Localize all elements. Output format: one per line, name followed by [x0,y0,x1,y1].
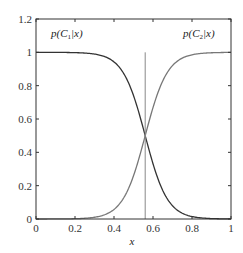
curve-p-c2 [36,52,231,219]
plot-frame [36,19,231,219]
y-tick-label: 0 [27,213,33,225]
y-tick-label: 1 [27,46,33,58]
x-tick-label: 0 [33,222,39,234]
x-tick-label: 0.4 [107,222,121,234]
curves [36,52,231,219]
chart: 00.20.40.60.81 00.20.40.60.811.2 p(C1|x)… [0,0,243,253]
x-axis-ticks: 00.20.40.60.81 [33,19,234,234]
y-tick-label: 1.2 [18,13,32,25]
x-tick-label: 0.2 [68,222,82,234]
annotation-p-c1: p(C1|x) [50,27,83,41]
curve-p-c1 [36,52,231,219]
x-tick-label: 1 [228,222,234,234]
y-tick-label: 0.8 [18,80,32,92]
y-axis-ticks: 00.20.40.60.811.2 [18,13,231,225]
y-tick-label: 0.4 [18,146,32,158]
annotation-p-c2: p(C2|x) [182,27,215,41]
x-tick-label: 0.8 [185,222,199,234]
y-tick-label: 0.2 [18,180,32,192]
y-tick-label: 0.6 [18,113,32,125]
x-tick-label: 0.6 [146,222,160,234]
x-axis-label: x [129,235,135,247]
